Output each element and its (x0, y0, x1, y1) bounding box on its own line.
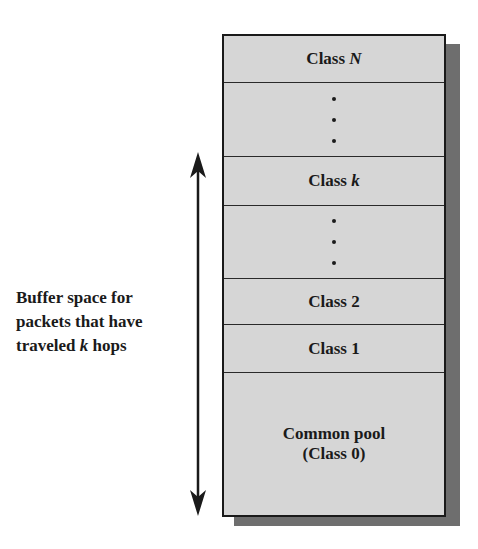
cell-class-1: Class 1 (224, 325, 444, 373)
annotation-line-3: traveled k hops (16, 334, 143, 358)
common-pool-sublabel: (Class 0) (303, 444, 366, 464)
common-pool-label: Common pool (283, 424, 385, 444)
buffer-stack: Class N Class k Class 2 Class 1 Common p… (222, 34, 446, 517)
cell-class-2: Class 2 (224, 279, 444, 325)
cell-class-k-label: Class k (308, 171, 359, 191)
annotation-line-1: Buffer space for (16, 286, 143, 310)
cell-class-k: Class k (224, 157, 444, 206)
vertical-ellipsis-icon (332, 219, 336, 265)
cell-class-1-label: Class 1 (308, 339, 359, 359)
cell-common-pool: Common pool (Class 0) (224, 373, 444, 515)
annotation-line-2: packets that have (16, 310, 143, 334)
cell-class-2-label: Class 2 (308, 292, 359, 312)
cell-ellipsis-upper (224, 83, 444, 157)
cell-class-n-label: Class N (306, 49, 361, 69)
vertical-ellipsis-icon (332, 97, 336, 143)
buffer-space-annotation: Buffer space for packets that have trave… (16, 286, 143, 358)
double-headed-arrow-icon (186, 152, 210, 516)
cell-class-n: Class N (224, 36, 444, 83)
cell-ellipsis-lower (224, 206, 444, 279)
